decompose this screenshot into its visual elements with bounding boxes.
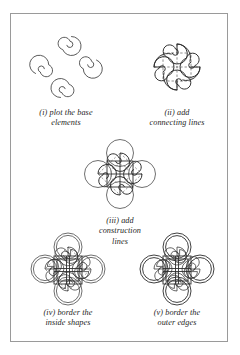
figure-step-1-drawing	[24, 26, 108, 108]
caption-step-5-line-2: outer edges	[129, 318, 225, 328]
caption-step-1-line-1: (i) plot the base	[18, 108, 114, 118]
caption-step-4-line-1: (iv) border the	[20, 308, 116, 318]
caption-step-4: (iv) border the inside shapes	[20, 308, 116, 329]
figure-step-2-drawing	[134, 24, 220, 110]
outer-edges-step-5	[140, 233, 214, 305]
diagram-page: (i) plot the base elements	[0, 0, 240, 355]
caption-step-1-line-2: elements	[18, 118, 114, 128]
figure-step-3	[77, 132, 163, 216]
caption-step-3-line-1: (iii) add	[71, 216, 169, 226]
figure-step-4	[22, 226, 114, 310]
caption-step-2: (ii) add connecting lines	[128, 108, 226, 129]
figure-step-2	[134, 24, 220, 110]
figure-step-4-drawing	[22, 226, 114, 310]
figure-step-3-drawing	[77, 132, 163, 216]
figure-step-1	[24, 26, 108, 108]
caption-step-4-line-2: inside shapes	[20, 318, 116, 328]
caption-step-5-line-1: (v) border the	[129, 308, 225, 318]
bordered-spirals-step-4	[45, 247, 91, 291]
caption-step-2-line-1: (ii) add	[128, 108, 226, 118]
caption-step-1: (i) plot the base elements	[18, 108, 114, 129]
bordered-spirals-step-5	[154, 247, 200, 291]
figure-step-5-drawing	[131, 226, 223, 310]
construction-circles-step-4	[31, 233, 105, 305]
figure-step-5	[131, 226, 223, 310]
caption-step-5: (v) border the outer edges	[129, 308, 225, 329]
caption-step-2-line-2: connecting lines	[128, 118, 226, 128]
